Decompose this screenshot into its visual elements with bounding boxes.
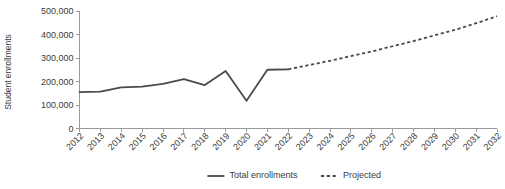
x-tick-label: 2015 [127, 131, 148, 152]
legend-label: Total enrollments [229, 170, 298, 180]
x-tick-label: 2027 [377, 131, 398, 152]
y-axis-title-group: Student enrollments [3, 34, 13, 110]
x-tick-label: 2018 [189, 131, 210, 152]
x-tick-label: 2031 [461, 131, 482, 152]
x-tick-label: 2020 [231, 131, 252, 152]
x-tick-label: 2030 [440, 131, 461, 152]
x-tick-label: 2012 [64, 131, 85, 152]
series-projected-line [288, 16, 497, 69]
y-tick-label: 400,000 [41, 30, 74, 40]
x-tick-label: 2032 [482, 131, 503, 152]
x-tick-label: 2017 [169, 131, 190, 152]
x-tick-label: 2019 [210, 131, 231, 152]
x-tick-label: 2025 [336, 131, 357, 152]
y-tick-label: 0 [68, 124, 73, 134]
enrollment-line-chart: Student enrollments 0100,000200,000300,0… [0, 0, 505, 189]
series-total-enrollments-line [80, 69, 289, 100]
x-tick-label: 2016 [148, 131, 169, 152]
x-tick-label: 2024 [315, 131, 336, 152]
y-tick-label: 200,000 [41, 77, 74, 87]
x-tick-label: 2026 [356, 131, 377, 152]
legend-label: Projected [343, 170, 381, 180]
x-tick-label: 2028 [398, 131, 419, 152]
x-tick-label: 2022 [273, 131, 294, 152]
x-tick-label: 2013 [85, 131, 106, 152]
x-tick-label: 2021 [252, 131, 273, 152]
chart-legend: Total enrollmentsProjected [207, 170, 381, 180]
y-axis-title: Student enrollments [3, 34, 13, 110]
x-tick-label: 2014 [106, 131, 127, 152]
chart-container: Student enrollments 0100,000200,000300,0… [0, 0, 505, 189]
y-tick-label: 300,000 [41, 53, 74, 63]
x-tick-label: 2023 [294, 131, 315, 152]
y-tick-label: 500,000 [41, 6, 74, 16]
y-axis-ticks: 0100,000200,000300,000400,000500,000 [41, 6, 80, 134]
x-axis-ticks: 2012201320142015201620172018201920202021… [64, 129, 503, 153]
y-tick-label: 100,000 [41, 100, 74, 110]
x-tick-label: 2029 [419, 131, 440, 152]
